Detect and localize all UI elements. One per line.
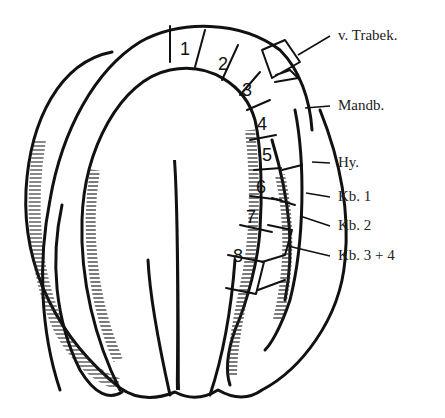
embryo-diagram: 1 2 3 4 5 6 7 8 v. Trabek. Mandb. Hy. Kb… (0, 0, 445, 418)
leader-v-trabek (298, 36, 330, 55)
segment-number-2: 2 (218, 54, 228, 74)
label-kb1: Kb. 1 (338, 188, 371, 204)
center-lobe-left (148, 260, 170, 395)
segment-number-1: 1 (180, 39, 190, 59)
label-kb2: Kb. 2 (338, 217, 371, 233)
segment-number-8: 8 (233, 246, 243, 266)
inner-fold-left-hatch (91, 170, 118, 360)
label-kb34: Kb. 3 + 4 (338, 247, 395, 263)
diagram-canvas: 1 2 3 4 5 6 7 8 v. Trabek. Mandb. Hy. Kb… (0, 0, 445, 418)
segment-number-5: 5 (262, 145, 272, 165)
central-groove (173, 160, 180, 390)
leader-hy (312, 162, 330, 163)
leader-kb34 (288, 246, 330, 256)
outer-left-hatch (35, 140, 118, 384)
label-mandb: Mandb. (338, 97, 384, 113)
segment-number-7: 7 (246, 207, 256, 227)
segment-number-4: 4 (257, 114, 267, 134)
leader-kb2 (300, 216, 330, 226)
segment-number-3: 3 (242, 80, 252, 100)
segment-number-6: 6 (256, 177, 266, 197)
arch-hatch (278, 175, 287, 320)
label-v-trabek: v. Trabek. (338, 27, 397, 43)
label-hy: Hy. (338, 154, 359, 170)
leader-kb1 (306, 193, 330, 197)
